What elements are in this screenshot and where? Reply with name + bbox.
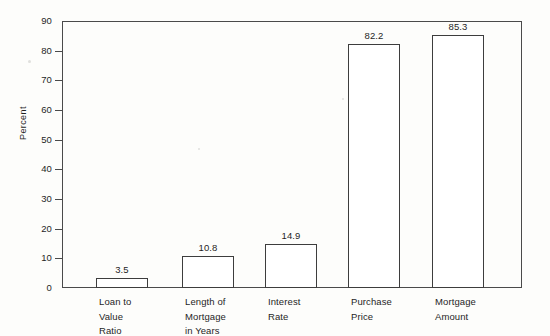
y-axis-tick-mark: [55, 199, 62, 200]
category-label-line: in Years: [185, 324, 226, 336]
category-label-line: Mortgage: [435, 295, 476, 310]
bar-chart: Percent 0102030405060708090 3.510.814.98…: [0, 0, 550, 336]
category-label-line: Price: [351, 310, 392, 325]
bar: [432, 35, 484, 288]
category-label-line: Length of: [185, 295, 226, 310]
y-axis-tick-label: 60: [41, 103, 52, 116]
category-label-line: Ratio: [99, 324, 131, 336]
x-axis-category-label: Loan toValueRatio: [99, 295, 131, 336]
scan-speckle: [28, 60, 31, 63]
category-label-line: Purchase: [351, 295, 392, 310]
y-axis-tick-mark: [55, 229, 62, 230]
category-label-line: Rate: [268, 310, 300, 325]
y-axis-tick-mark: [55, 80, 62, 81]
category-label-line: Loan to: [99, 295, 131, 310]
bar: [96, 278, 148, 288]
bar: [265, 244, 317, 288]
y-axis-tick-mark: [55, 140, 62, 141]
x-axis-category-label: MortgageAmount: [435, 295, 476, 324]
category-label-line: Amount: [435, 310, 476, 325]
category-label-line: Value: [99, 310, 131, 325]
y-axis-tick-label: 70: [41, 73, 52, 86]
y-axis-title: Percent: [18, 106, 28, 140]
category-label-line: Mortgage: [185, 310, 226, 325]
y-axis-tick-mark: [55, 51, 62, 52]
y-axis-tick-label: 40: [41, 162, 52, 175]
y-axis-tick-label: 0: [47, 281, 52, 294]
bar: [182, 256, 234, 288]
x-axis-category-label: InterestRate: [268, 295, 300, 324]
bar-value-label: 10.8: [168, 242, 248, 254]
y-axis-tick-label: 80: [41, 44, 52, 57]
y-axis-tick-label: 20: [41, 222, 52, 235]
y-axis-tick-mark: [55, 110, 62, 111]
x-axis-category-label: PurchasePrice: [351, 295, 392, 324]
category-label-line: Interest: [268, 295, 300, 310]
y-axis-tick-mark: [55, 258, 62, 259]
bar-value-label: 82.2: [334, 30, 414, 42]
y-axis-tick-label: 10: [41, 251, 52, 264]
bar-value-label: 3.5: [82, 264, 162, 276]
y-axis-tick-label: 50: [41, 133, 52, 146]
x-axis-category-label: Length ofMortgagein Years: [185, 295, 226, 336]
bar-value-label: 85.3: [418, 21, 498, 33]
y-axis-tick-mark: [55, 169, 62, 170]
bar-value-label: 14.9: [251, 230, 331, 242]
bar: [348, 44, 400, 288]
y-axis-tick-label: 90: [41, 14, 52, 27]
y-axis-tick-label: 30: [41, 192, 52, 205]
